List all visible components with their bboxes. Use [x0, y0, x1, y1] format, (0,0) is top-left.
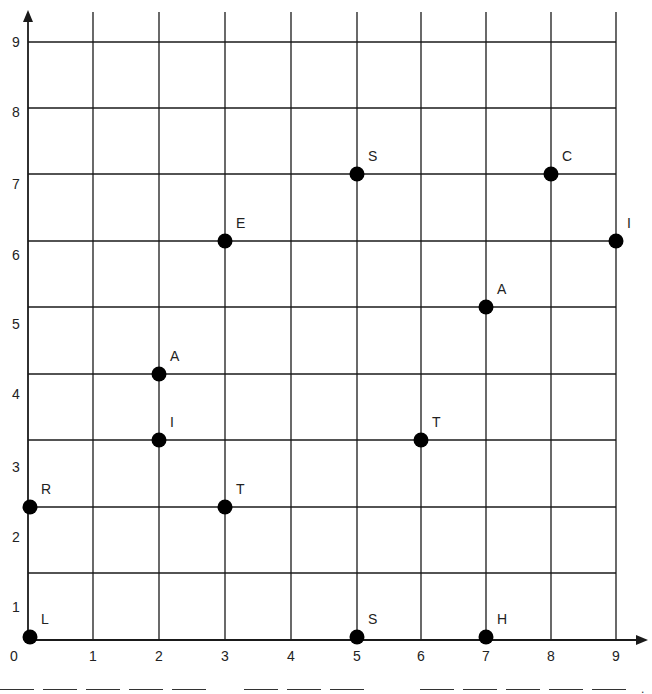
x-tick-label: 0 — [6, 649, 22, 663]
x-tick-label: 1 — [85, 649, 101, 663]
y-tick-label: 5 — [10, 317, 22, 331]
point-label: I — [627, 216, 631, 230]
data-point — [152, 433, 167, 448]
data-point — [23, 630, 38, 645]
sentence-period: . — [641, 682, 644, 694]
y-tick-label: 9 — [10, 35, 22, 49]
point-label: I — [170, 415, 174, 429]
x-axis-arrow-icon — [636, 635, 648, 645]
data-point — [218, 500, 233, 515]
x-tick-label: 7 — [478, 649, 494, 663]
data-point — [544, 167, 559, 182]
answer-blank — [463, 689, 497, 690]
point-label: T — [236, 482, 245, 496]
data-point — [23, 500, 38, 515]
answer-blank — [549, 689, 583, 690]
y-tick-label: 3 — [10, 460, 22, 474]
y-tick-label: 4 — [10, 387, 22, 401]
data-point — [350, 167, 365, 182]
point-label: A — [170, 349, 179, 363]
data-point — [152, 367, 167, 382]
point-label: R — [41, 482, 51, 496]
point-label: E — [236, 216, 245, 230]
data-point — [479, 630, 494, 645]
point-label: H — [497, 612, 507, 626]
data-point — [479, 300, 494, 315]
point-label: S — [368, 612, 377, 626]
answer-blank — [420, 689, 454, 690]
x-tick-label: 6 — [413, 649, 429, 663]
x-tick-label: 8 — [543, 649, 559, 663]
answer-blank — [86, 689, 120, 690]
y-axis-arrow-icon — [23, 10, 33, 22]
data-point — [414, 433, 429, 448]
x-tick-label: 4 — [283, 649, 299, 663]
answer-blank — [129, 689, 163, 690]
y-tick-label: 7 — [10, 177, 22, 191]
answer-blank — [172, 689, 206, 690]
point-label: C — [562, 149, 572, 163]
answer-blank — [506, 689, 540, 690]
answer-blank — [287, 689, 321, 690]
answer-blank — [43, 689, 77, 690]
y-tick-label: 8 — [10, 105, 22, 119]
point-label: S — [368, 149, 377, 163]
y-tick-label: 2 — [10, 530, 22, 544]
y-tick-label: 6 — [10, 248, 22, 262]
answer-blank — [0, 689, 34, 690]
x-tick-label: 3 — [217, 649, 233, 663]
x-tick-label: 2 — [151, 649, 167, 663]
point-label: T — [432, 415, 441, 429]
answer-blank — [592, 689, 626, 690]
point-label: L — [41, 612, 49, 626]
coordinate-grid — [0, 0, 652, 694]
x-tick-label: 5 — [349, 649, 365, 663]
point-label: A — [497, 282, 506, 296]
answer-blank — [244, 689, 278, 690]
data-point — [609, 234, 624, 249]
answer-blank — [330, 689, 364, 690]
y-tick-label: 1 — [10, 600, 22, 614]
x-tick-label: 9 — [608, 649, 624, 663]
data-point — [350, 630, 365, 645]
data-point — [218, 234, 233, 249]
